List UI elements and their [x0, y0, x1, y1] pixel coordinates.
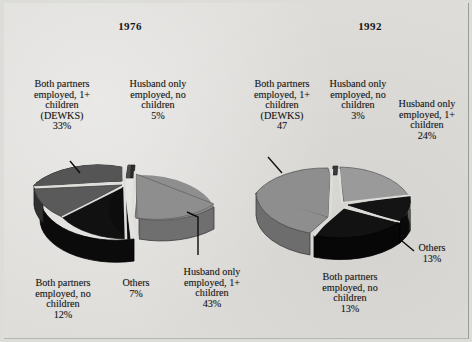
label-1976-others: Others 7%: [110, 278, 162, 299]
chart-title-1976: 1976: [90, 20, 170, 32]
figure-container: 1976: [0, 0, 472, 342]
label-1976-husband-with-children: Husband only employed, 1+ children 43%: [164, 267, 260, 309]
label-1976-husband-no-children: Husband only employed, no children 5%: [112, 79, 204, 121]
label-1992-others: Others 13%: [404, 243, 460, 264]
label-1992-both-no-children: Both partners employed, no children 13%: [300, 272, 400, 314]
label-1976-dewks: Both partners employed, 1+ children (DEW…: [8, 79, 116, 132]
pie-chart-1976: [18, 125, 233, 285]
chart-title-1992: 1992: [330, 20, 410, 32]
label-1992-husband-with-children: Husband only employed, 1+ children 24%: [384, 99, 470, 141]
label-1976-both-no-children: Both partners employed, no children 12%: [14, 278, 112, 320]
